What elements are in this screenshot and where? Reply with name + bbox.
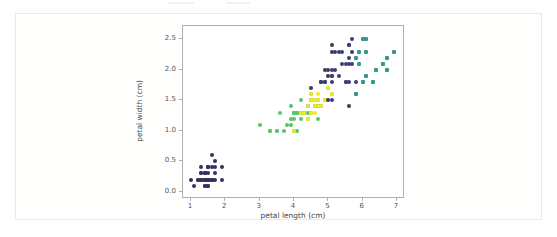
data-point bbox=[192, 184, 196, 188]
data-point bbox=[295, 129, 299, 133]
data-point bbox=[210, 178, 214, 182]
data-point bbox=[323, 80, 327, 84]
data-point bbox=[326, 74, 330, 78]
data-point bbox=[292, 117, 296, 121]
plot-axes-frame bbox=[182, 25, 404, 198]
data-point bbox=[213, 165, 217, 169]
data-point bbox=[220, 178, 224, 182]
y-axis-tick-label: 0.0 bbox=[160, 187, 176, 195]
data-point bbox=[385, 68, 389, 72]
data-point bbox=[347, 80, 351, 84]
x-axis-tick-label: 3 bbox=[256, 202, 260, 210]
data-point bbox=[392, 50, 396, 54]
data-point bbox=[316, 98, 320, 102]
data-point bbox=[292, 129, 296, 133]
data-point bbox=[371, 80, 375, 84]
data-point bbox=[258, 123, 262, 127]
y-axis-tick bbox=[179, 99, 182, 100]
data-point bbox=[330, 74, 334, 78]
data-point bbox=[213, 178, 217, 182]
data-point bbox=[316, 117, 320, 121]
data-point bbox=[333, 50, 337, 54]
data-point bbox=[333, 68, 337, 72]
data-point bbox=[364, 37, 368, 41]
y-axis-label: petal width (cm) bbox=[135, 80, 144, 142]
data-point bbox=[302, 111, 306, 115]
data-point bbox=[313, 104, 317, 108]
x-axis-tick bbox=[259, 198, 260, 201]
data-point bbox=[206, 184, 210, 188]
data-point bbox=[347, 62, 351, 66]
data-point bbox=[323, 68, 327, 72]
y-axis-tick-label: 2.5 bbox=[160, 34, 176, 42]
x-axis-tick bbox=[190, 198, 191, 201]
data-point bbox=[275, 129, 279, 133]
data-point bbox=[199, 165, 203, 169]
data-point bbox=[347, 43, 351, 47]
data-point bbox=[344, 80, 348, 84]
y-axis-tick-label: 2.0 bbox=[160, 65, 176, 73]
data-point bbox=[285, 123, 289, 127]
y-axis-tick-label: 1.0 bbox=[160, 126, 176, 134]
scatter-plot-figure: 12345670.00.51.01.52.02.5 petal length (… bbox=[0, 0, 557, 237]
data-point bbox=[289, 123, 293, 127]
data-point bbox=[347, 56, 351, 60]
data-point bbox=[289, 104, 293, 108]
screenshot-root: 12345670.00.51.01.52.02.5 petal length (… bbox=[0, 0, 557, 237]
data-point bbox=[316, 92, 320, 96]
data-point bbox=[340, 50, 344, 54]
x-axis-tick-label: 2 bbox=[222, 202, 226, 210]
data-point bbox=[282, 129, 286, 133]
y-axis-tick bbox=[179, 38, 182, 39]
x-axis-tick-label: 4 bbox=[291, 202, 295, 210]
data-point bbox=[213, 159, 217, 163]
data-point bbox=[364, 50, 368, 54]
y-axis-tick-label: 1.5 bbox=[160, 95, 176, 103]
x-axis-label: petal length (cm) bbox=[182, 211, 404, 220]
y-axis-tick-label: 0.5 bbox=[160, 156, 176, 164]
data-point bbox=[213, 171, 217, 175]
data-point bbox=[357, 50, 361, 54]
data-point bbox=[354, 92, 358, 96]
data-point bbox=[306, 117, 310, 121]
x-axis-tick-label: 1 bbox=[188, 202, 192, 210]
data-point bbox=[206, 165, 210, 169]
data-point bbox=[210, 153, 214, 157]
data-point bbox=[306, 104, 310, 108]
data-point bbox=[350, 37, 354, 41]
data-point bbox=[330, 43, 334, 47]
data-point bbox=[299, 117, 303, 121]
data-point bbox=[203, 184, 207, 188]
y-axis-tick bbox=[179, 191, 182, 192]
x-axis-tick-label: 7 bbox=[394, 202, 398, 210]
x-axis-tick-label: 6 bbox=[359, 202, 363, 210]
data-point bbox=[206, 171, 210, 175]
data-point bbox=[309, 111, 313, 115]
x-axis-tick bbox=[224, 198, 225, 201]
data-point bbox=[278, 111, 282, 115]
data-point bbox=[268, 129, 272, 133]
data-point bbox=[189, 178, 193, 182]
data-point bbox=[203, 171, 207, 175]
data-point bbox=[381, 62, 385, 66]
data-point bbox=[326, 86, 330, 90]
x-axis-tick bbox=[362, 198, 363, 201]
data-point bbox=[206, 178, 210, 182]
data-point bbox=[220, 165, 224, 169]
data-point bbox=[319, 104, 323, 108]
data-point bbox=[364, 74, 368, 78]
data-point bbox=[319, 80, 323, 84]
data-point bbox=[309, 86, 313, 90]
x-axis-tick bbox=[396, 198, 397, 201]
data-point bbox=[330, 80, 334, 84]
y-axis-tick bbox=[179, 130, 182, 131]
y-axis-tick bbox=[179, 160, 182, 161]
data-point bbox=[350, 62, 354, 66]
data-point bbox=[309, 92, 313, 96]
data-point bbox=[330, 92, 334, 96]
data-point bbox=[350, 50, 354, 54]
data-point bbox=[330, 98, 334, 102]
data-point bbox=[340, 62, 344, 66]
data-point bbox=[357, 62, 361, 66]
data-point bbox=[354, 80, 358, 84]
